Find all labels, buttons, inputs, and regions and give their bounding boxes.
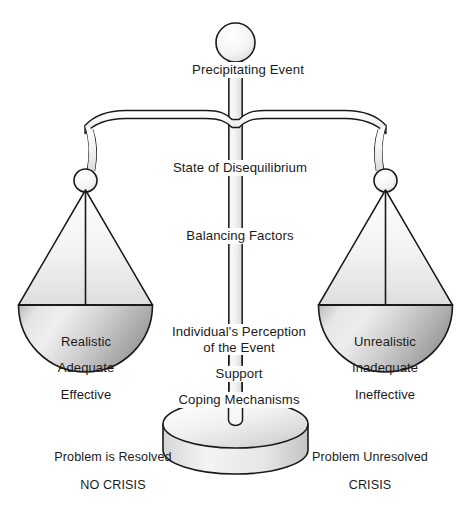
right-verdict-label: CRISIS <box>349 478 392 493</box>
crisis-balance-diagram: Precipitating Event State of Disequilibr… <box>0 0 471 514</box>
scale-base <box>163 400 308 474</box>
precipitating-event-ball <box>216 23 255 62</box>
label-support: Support <box>212 366 267 382</box>
edge-marginalia <box>456 452 470 492</box>
right-pan-item-3: Ineffective <box>355 387 415 402</box>
label-precipitating-event: Precipitating Event <box>189 62 307 78</box>
right-pan-hanger <box>374 169 397 192</box>
left-outcome-label: Problem is Resolved <box>54 450 171 465</box>
label-individuals-perception: Individual's Perception of the Event <box>168 324 310 355</box>
label-state-of-disequilibrium: State of Disequilibrium <box>169 160 311 176</box>
left-pan-hanger <box>74 169 97 192</box>
right-pan-item-1: Unrealistic <box>354 334 416 349</box>
left-pan-item-3: Effective <box>61 387 112 402</box>
right-outcome-label: Problem Unresolved <box>312 450 428 465</box>
perception-line-2: of the Event <box>203 340 275 355</box>
label-coping-mechanisms: Coping Mechanisms <box>174 392 303 408</box>
left-pan-item-2: Adequate <box>58 360 114 375</box>
left-pan-item-1: Realistic <box>61 334 111 349</box>
right-pan-item-2: Inadequate <box>352 360 418 375</box>
left-verdict-label: NO CRISIS <box>80 478 145 493</box>
perception-line-1: Individual's Perception <box>172 324 306 339</box>
label-balancing-factors: Balancing Factors <box>182 228 297 244</box>
